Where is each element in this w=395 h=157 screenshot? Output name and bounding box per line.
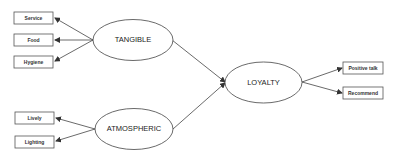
indicator-lively: Lively <box>15 112 54 124</box>
indicator-hygiene-label: Hygiene <box>24 59 44 65</box>
arrow-tangible-loyalty <box>172 40 225 82</box>
sem-diagram: Service Food Hygiene Lively Lighting Pos… <box>0 0 395 157</box>
construct-loyalty: LOYALTY <box>225 62 302 103</box>
indicator-lively-label: Lively <box>27 115 41 121</box>
indicator-service: Service <box>14 12 53 24</box>
arrow-atmospheric-lighting <box>56 129 95 141</box>
indicator-lighting-label: Lighting <box>25 139 45 145</box>
indicator-recommend-label: Recommend <box>348 90 378 96</box>
construct-tangible-label: TANGIBLE <box>115 35 152 44</box>
indicator-recommend: Recommend <box>343 87 383 99</box>
construct-atmospheric: ATMOSPHERIC <box>95 109 173 150</box>
indicator-lighting: Lighting <box>15 136 54 148</box>
indicator-positive-talk: Positive talk <box>343 62 383 74</box>
indicator-service-label: Service <box>25 15 43 21</box>
arrow-atmospheric-loyalty <box>173 83 225 129</box>
indicator-positive-talk-label: Positive talk <box>348 65 377 71</box>
arrow-tangible-hygiene <box>55 40 93 61</box>
construct-atmospheric-label: ATMOSPHERIC <box>107 124 162 133</box>
indicator-food-label: Food <box>27 37 39 43</box>
indicator-food: Food <box>14 34 53 46</box>
indicator-hygiene: Hygiene <box>14 56 53 68</box>
arrow-tangible-service <box>55 18 93 40</box>
arrow-loyalty-positive-talk <box>302 68 342 82</box>
construct-tangible: TANGIBLE <box>93 20 173 61</box>
arrow-loyalty-recommend <box>302 82 342 93</box>
arrow-atmospheric-lively <box>56 118 95 129</box>
construct-loyalty-label: LOYALTY <box>247 78 280 87</box>
